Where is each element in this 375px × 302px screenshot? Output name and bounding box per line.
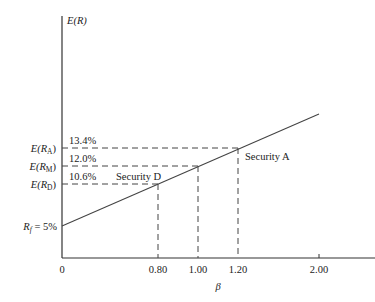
label-erm: E(RM) <box>29 161 57 174</box>
value-erm: 12.0% <box>69 153 96 164</box>
y-axis-title: E(R) <box>66 15 87 27</box>
value-era: 13.4% <box>69 135 96 146</box>
label-era: E(RA) <box>30 143 57 156</box>
label-erd: E(RD) <box>30 179 57 192</box>
sml-chart: E(R) E(RA) E(RM) E(RD) Rf = 5% 13.4% 12.… <box>0 0 375 302</box>
label-security-d: Security D <box>116 171 162 182</box>
tick-label-200: 2.00 <box>310 264 328 275</box>
chart-canvas: E(R) E(RA) E(RM) E(RD) Rf = 5% 13.4% 12.… <box>0 0 375 302</box>
tick-label-080: 0.80 <box>149 264 167 275</box>
label-rf: Rf = 5% <box>22 221 57 234</box>
label-security-a: Security A <box>245 151 290 162</box>
security-market-line <box>62 114 319 226</box>
tick-label-0: 0 <box>59 264 64 275</box>
value-erd: 10.6% <box>69 171 96 182</box>
tick-label-120: 1.20 <box>229 264 247 275</box>
x-axis-title: β <box>214 281 221 292</box>
tick-label-100: 1.00 <box>189 264 207 275</box>
